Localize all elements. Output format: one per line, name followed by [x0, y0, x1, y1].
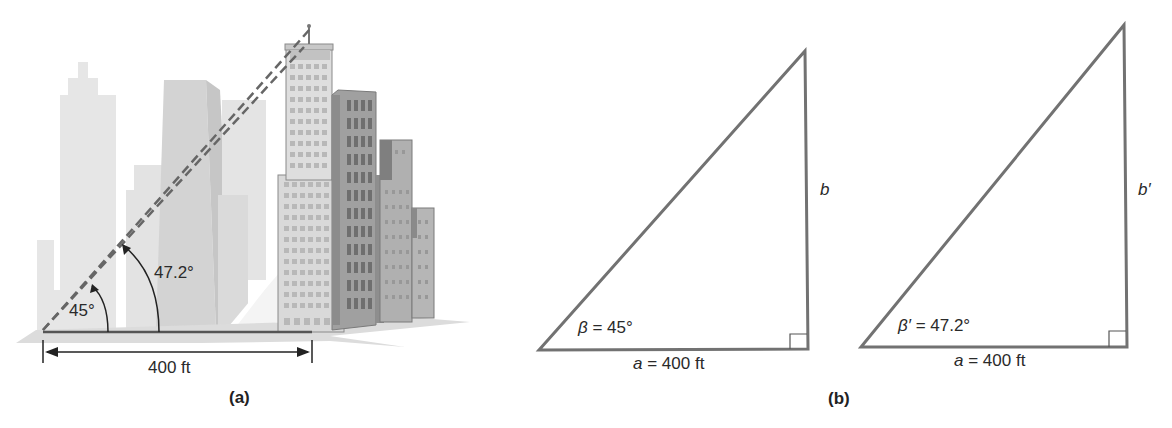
- triangle-45: [539, 51, 808, 350]
- caption-a: (a): [229, 388, 250, 408]
- triangle2-base-label: a = 400 ft: [954, 351, 1025, 371]
- triangle2-angle-label: β′ = 47.2°: [898, 316, 970, 336]
- triangle2-side-label: b′: [1138, 180, 1151, 200]
- base-value: = 400 ft: [642, 354, 704, 373]
- base-value: = 400 ft: [963, 351, 1025, 370]
- angle-label-47: 47.2°: [154, 263, 194, 283]
- caption-b: (b): [828, 389, 850, 409]
- adjacent-building-right: [376, 140, 434, 323]
- beta-symbol: β: [578, 318, 588, 337]
- beta-value: = 45°: [588, 318, 633, 337]
- triangle1-angle-label: β = 45°: [578, 318, 633, 338]
- triangle-47: [861, 25, 1127, 347]
- adjacent-building-dark: [332, 90, 376, 330]
- beta-prime-value: = 47.2°: [911, 316, 970, 335]
- triangle1-side-label: b: [820, 180, 829, 200]
- beta-prime-symbol: β′: [898, 316, 911, 335]
- triangle1-base-label: a = 400 ft: [633, 354, 704, 374]
- angle-label-45: 45°: [69, 301, 95, 321]
- distance-label: 400 ft: [148, 358, 191, 378]
